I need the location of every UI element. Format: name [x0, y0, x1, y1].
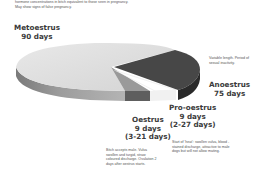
label-metoestrus: Metoestrus 90 days	[14, 24, 60, 41]
metoestrus-days: 90 days	[14, 33, 60, 42]
anoestrus-days: 75 days	[209, 90, 250, 99]
label-anoestrus: Anoestrus 75 days	[209, 81, 250, 98]
label-oestrus: Oestrus 9 days (3-21 days)	[125, 116, 171, 142]
slice-prooestrus-side	[150, 90, 176, 101]
oestrus-range: (3-21 days)	[125, 133, 171, 142]
prooestrus-range: (2-27 days)	[169, 121, 216, 130]
label-prooestrus: Pro-oestrus 9 days (2-27 days)	[169, 104, 216, 130]
slice-oestrus-side	[125, 91, 150, 101]
oestrus-note: Bitch accepts male. Vulva swollen and tu…	[106, 148, 158, 166]
anoestrus-note: Variable length. Period of sexual inacti…	[209, 56, 255, 65]
prooestrus-note: Start of 'heat': swollen vulva, blood - …	[172, 140, 238, 154]
